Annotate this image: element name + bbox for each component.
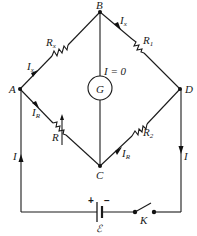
node-b-label: B	[96, 0, 103, 11]
current-ix-ab-label: Ix	[26, 60, 35, 74]
current-arrow-i-left-icon	[19, 154, 24, 162]
branch-c-d	[100, 89, 180, 166]
galvanometer-current-label: I = 0	[103, 65, 127, 77]
variable-arrow-icon	[60, 114, 64, 120]
current-arrow-i-right-icon	[179, 146, 184, 154]
branch-a-c	[20, 89, 100, 166]
current-i-right-label: I	[183, 150, 189, 162]
battery-emf-label: ℰ	[96, 223, 103, 234]
resistor-r-label: R	[51, 131, 59, 143]
node-c-label: C	[96, 169, 104, 181]
node-d-dot	[178, 87, 182, 91]
resistor-r2-label: R2	[142, 126, 154, 140]
outer-loop	[19, 89, 184, 222]
battery-minus-label: −	[104, 195, 110, 206]
current-ir-cd-label: IR	[121, 147, 131, 161]
switch-blade-icon[interactable]	[135, 203, 151, 212]
current-i-left-label: I	[12, 150, 18, 162]
galvanometer-label: G	[96, 83, 104, 95]
switch-k-label: K	[139, 214, 148, 226]
node-a-dot	[18, 87, 22, 91]
current-ix-bd-label: Ix	[119, 14, 128, 28]
wheatstone-bridge-diagram: G I = 0 A B C D Rx R1 R R2 Ix Ix IR IR I…	[0, 0, 197, 236]
resistor-r1-label: R1	[142, 34, 153, 48]
node-d-label: D	[184, 83, 193, 95]
node-a-label: A	[8, 83, 16, 95]
node-c-dot	[98, 164, 102, 168]
branch-a-b	[20, 12, 100, 89]
resistor-rx-label: Rx	[45, 36, 57, 50]
battery-plus-label: +	[88, 195, 94, 206]
branch-b-d	[100, 12, 180, 89]
galvanometer-branch: G I = 0	[88, 12, 127, 166]
